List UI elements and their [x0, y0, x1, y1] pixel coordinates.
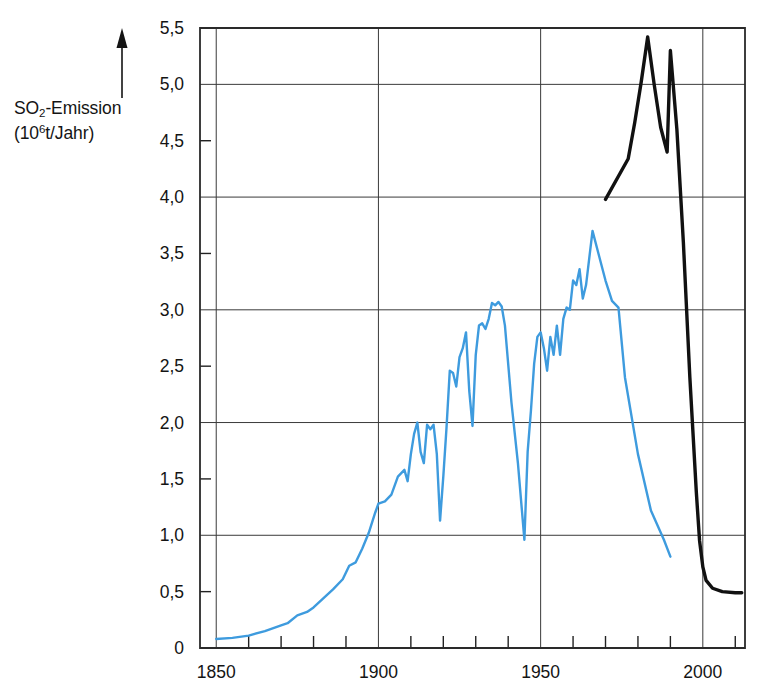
y-axis-unit-pre: (10: [14, 123, 39, 143]
y-tick-label: 5,0: [120, 74, 184, 95]
y-tick-label: 3,5: [120, 243, 184, 264]
so2-emission-chart: SO2-Emission (106t/Jahr) 00,51,01,52,02,…: [0, 0, 784, 697]
axis-ticks: [200, 28, 735, 648]
y-tick-label: 0: [120, 638, 184, 659]
y-axis-title-so: SO: [14, 98, 39, 118]
x-tick-label: 2000: [683, 662, 722, 683]
y-tick-label: 3,0: [120, 299, 184, 320]
y-tick-label: 5,5: [120, 18, 184, 39]
y-tick-label: 2,5: [120, 356, 184, 377]
series-line-blue-curve: [216, 231, 670, 639]
y-tick-label: 1,0: [120, 525, 184, 546]
x-tick-label: 1950: [521, 662, 560, 683]
plot-frame: [200, 28, 745, 648]
y-tick-label: 1,5: [120, 468, 184, 489]
y-tick-label: 2,0: [120, 412, 184, 433]
y-tick-label: 0,5: [120, 581, 184, 602]
y-axis-unit-post: t/Jahr): [45, 123, 94, 143]
gridlines: [200, 28, 745, 648]
y-tick-label: 4,5: [120, 130, 184, 151]
x-tick-label: 1900: [359, 662, 398, 683]
axis-frame: [200, 28, 745, 648]
data-series: [216, 37, 742, 639]
y-axis-title-line1: SO2-Emission: [14, 96, 184, 121]
y-tick-label: 4,0: [120, 187, 184, 208]
series-line-black-curve: [606, 37, 742, 593]
x-tick-label: 1850: [197, 662, 236, 683]
y-axis-title-emission: -Emission: [45, 98, 121, 118]
